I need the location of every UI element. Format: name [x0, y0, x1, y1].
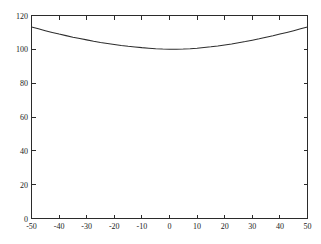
figure-background [0, 0, 321, 244]
x-tick-label: 50 [304, 222, 312, 231]
x-tick-label: -40 [54, 222, 65, 231]
x-tick-label: 10 [193, 222, 201, 231]
y-tick-label: 20 [20, 181, 28, 190]
line-chart: -50-40-30-20-1001020304050 0204060801001… [0, 0, 321, 244]
figure-canvas: -50-40-30-20-1001020304050 0204060801001… [0, 0, 321, 244]
x-tick-label: -30 [81, 222, 92, 231]
y-tick-label: 120 [16, 12, 28, 21]
x-tick-label: -10 [137, 222, 148, 231]
x-tick-label: -20 [109, 222, 120, 231]
y-tick-label: 100 [16, 45, 28, 54]
y-tick-label: 0 [24, 215, 28, 224]
y-tick-label: 80 [20, 79, 28, 88]
x-tick-label: 20 [221, 222, 229, 231]
x-tick-label: 30 [248, 222, 256, 231]
y-tick-label: 40 [20, 147, 28, 156]
y-tick-label: 60 [20, 113, 28, 122]
x-tick-label: 40 [276, 222, 284, 231]
x-tick-label: 0 [168, 222, 172, 231]
